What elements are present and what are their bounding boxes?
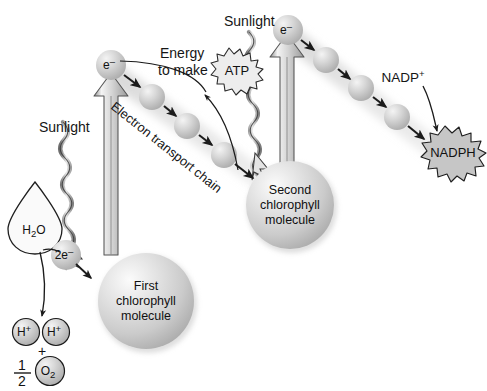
- photosynthesis-light-reactions-diagram: First chlorophyll molecule Second chloro…: [0, 0, 487, 391]
- nadp-plus-label: NADP+: [381, 68, 425, 85]
- energy-label-line2: to make: [158, 62, 208, 78]
- oxygen-molecule: O2: [36, 357, 65, 386]
- nadph-starburst: NADPH: [421, 126, 486, 182]
- one-half-fraction: 1 2: [14, 357, 31, 389]
- first-chain-electron: e–: [96, 50, 126, 80]
- first-chain-carrier-1: [139, 84, 165, 110]
- second-chlorophyll-line1: Second: [269, 183, 311, 197]
- second-chain-carrier-3: [384, 104, 410, 130]
- plus-sign: +: [38, 343, 46, 359]
- sunlight-label-right: Sunlight: [224, 13, 275, 29]
- second-chain-carrier-2: [348, 75, 374, 101]
- first-chlorophyll-line3: molecule: [121, 309, 171, 323]
- water-to-protons-arrow: [40, 252, 44, 316]
- second-chain-electron: e–: [273, 15, 303, 45]
- nadph-label: NADPH: [430, 145, 476, 160]
- atp-starburst: ATP: [211, 48, 263, 95]
- proton-1: H+: [13, 319, 40, 346]
- sunlight-label-left: Sunlight: [39, 119, 90, 135]
- nadp-plus-arrow: [423, 86, 437, 131]
- second-chlorophyll-sphere: Second chlorophyll molecule: [246, 161, 337, 253]
- first-chain-carrier-2: [174, 113, 200, 139]
- atp-label: ATP: [225, 63, 249, 78]
- first-chlorophyll-sphere: First chlorophyll molecule: [98, 253, 197, 353]
- water-droplet: H2O: [8, 182, 62, 254]
- second-chain-carrier-1: [313, 47, 339, 73]
- second-chlorophyll-line3: molecule: [265, 213, 315, 227]
- second-chlorophyll-line2: chlorophyll: [260, 198, 320, 212]
- energy-label-line1: Energy: [160, 45, 204, 61]
- first-chlorophyll-line1: First: [134, 279, 159, 293]
- diagram-canvas: First chlorophyll molecule Second chloro…: [0, 0, 487, 391]
- first-chlorophyll-line2: chlorophyll: [116, 294, 176, 308]
- proton-2: H+: [43, 319, 70, 346]
- fraction-numerator: 1: [18, 357, 26, 373]
- excitation-arrow-right: [270, 34, 304, 178]
- excitation-arrow-left: [94, 73, 128, 255]
- fraction-denominator: 2: [18, 373, 26, 389]
